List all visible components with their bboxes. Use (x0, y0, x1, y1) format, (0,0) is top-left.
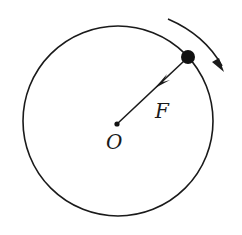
force-label: F (154, 99, 170, 123)
force-vector-line (117, 61, 184, 124)
center-point-dot (114, 121, 119, 126)
motion-direction-arc (168, 19, 222, 66)
particle-ball (181, 50, 195, 64)
center-label: O (106, 130, 122, 154)
diagram-svg: F O (0, 0, 242, 235)
diagram-canvas: F O (0, 0, 242, 235)
